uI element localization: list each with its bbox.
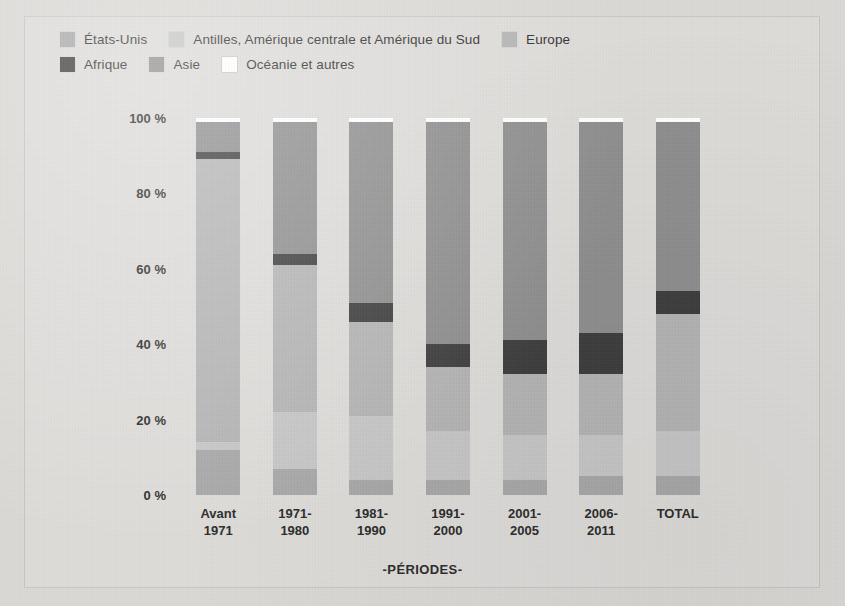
x-axis-tick-label: 2001-2005 [486, 505, 563, 539]
bar-column[interactable] [273, 118, 317, 495]
bar-segment [503, 480, 547, 495]
stacked-bar [579, 118, 623, 495]
x-axis-labels: Avant19711971-19801981-19901991-20002001… [180, 505, 716, 551]
y-axis-tick-label: 100 % [129, 111, 166, 126]
stacked-bar [503, 118, 547, 495]
bar-segment [273, 118, 317, 122]
bar-segment [426, 344, 470, 367]
x-axis-tick-line2: 2005 [486, 522, 563, 539]
x-axis-tick-line2: 2000 [410, 522, 487, 539]
bar-segment [426, 118, 470, 122]
bar-segment [196, 442, 240, 450]
bar-column[interactable] [579, 118, 623, 495]
bar-segment [273, 254, 317, 265]
bar-segment [656, 314, 700, 431]
bar-segment [349, 322, 393, 416]
bar-segment [426, 122, 470, 344]
bar-segment [349, 416, 393, 480]
stacked-bar [196, 118, 240, 495]
x-axis-tick-line1: 1971- [257, 505, 334, 522]
y-axis-labels: 100 %80 %60 %40 %20 %0 % [104, 110, 166, 502]
x-axis-tick-label: 1971-1980 [257, 505, 334, 539]
stacked-bar [273, 118, 317, 495]
bar-segment [273, 412, 317, 469]
x-axis-tick-label: 1981-1990 [333, 505, 410, 539]
bar-segment [349, 122, 393, 303]
y-axis-tick-label: 80 % [136, 186, 166, 201]
bar-segment [273, 265, 317, 412]
stacked-bar-chart: 100 %80 %60 %40 %20 %0 % Avant19711971-1… [0, 0, 845, 606]
stacked-bar [426, 118, 470, 495]
bar-segment [656, 476, 700, 495]
bar-segment [503, 118, 547, 122]
bar-segment [579, 333, 623, 374]
bar-segment [196, 159, 240, 442]
bar-segment [656, 122, 700, 292]
stacked-bar [656, 118, 700, 495]
y-axis-tick-label: 60 % [136, 261, 166, 276]
bar-segment [579, 374, 623, 434]
bar-column[interactable] [656, 118, 700, 495]
bar-segment [503, 435, 547, 480]
bar-segment [273, 469, 317, 495]
x-axis-tick-line2: 1980 [257, 522, 334, 539]
bar-segment [426, 367, 470, 431]
bar-column[interactable] [503, 118, 547, 495]
x-axis-tick-line1: Avant [180, 505, 257, 522]
bar-column[interactable] [349, 118, 393, 495]
stacked-bar [349, 118, 393, 495]
bar-segment [349, 118, 393, 122]
bar-segment [656, 291, 700, 314]
bar-column[interactable] [426, 118, 470, 495]
bar-segment [656, 431, 700, 476]
bar-segment [196, 118, 240, 122]
x-axis-title: -PÉRIODES- [0, 562, 845, 577]
bar-segment [273, 122, 317, 254]
x-axis-tick-label: TOTAL [639, 505, 716, 522]
x-axis-tick-line1: 2001- [486, 505, 563, 522]
bar-segment [196, 122, 240, 152]
bar-segment [503, 340, 547, 374]
bar-segment [196, 450, 240, 495]
x-axis-tick-label: 2006-2011 [563, 505, 640, 539]
y-axis-tick-label: 0 % [144, 488, 166, 503]
x-axis-tick-line2: 2011 [563, 522, 640, 539]
x-axis-tick-line2: 1971 [180, 522, 257, 539]
bar-segment [503, 374, 547, 434]
bar-segment [579, 122, 623, 333]
bar-segment [349, 303, 393, 322]
bar-segment [579, 435, 623, 476]
x-axis-tick-label: 1991-2000 [410, 505, 487, 539]
bar-column[interactable] [196, 118, 240, 495]
x-axis-tick-line1: TOTAL [639, 505, 716, 522]
x-axis-tick-line1: 1981- [333, 505, 410, 522]
bar-segment [579, 118, 623, 122]
x-axis-tick-line1: 1991- [410, 505, 487, 522]
x-axis-tick-line2: 1990 [333, 522, 410, 539]
plot-area [180, 118, 716, 495]
bar-segment [579, 476, 623, 495]
x-axis-tick-label: Avant1971 [180, 505, 257, 539]
bar-segment [196, 152, 240, 160]
y-axis-tick-label: 40 % [136, 337, 166, 352]
bar-segment [349, 480, 393, 495]
x-axis-tick-line1: 2006- [563, 505, 640, 522]
bar-segment [426, 480, 470, 495]
y-axis-tick-label: 20 % [136, 412, 166, 427]
bar-segment [426, 431, 470, 480]
bar-segment [503, 122, 547, 341]
bar-segment [656, 118, 700, 122]
